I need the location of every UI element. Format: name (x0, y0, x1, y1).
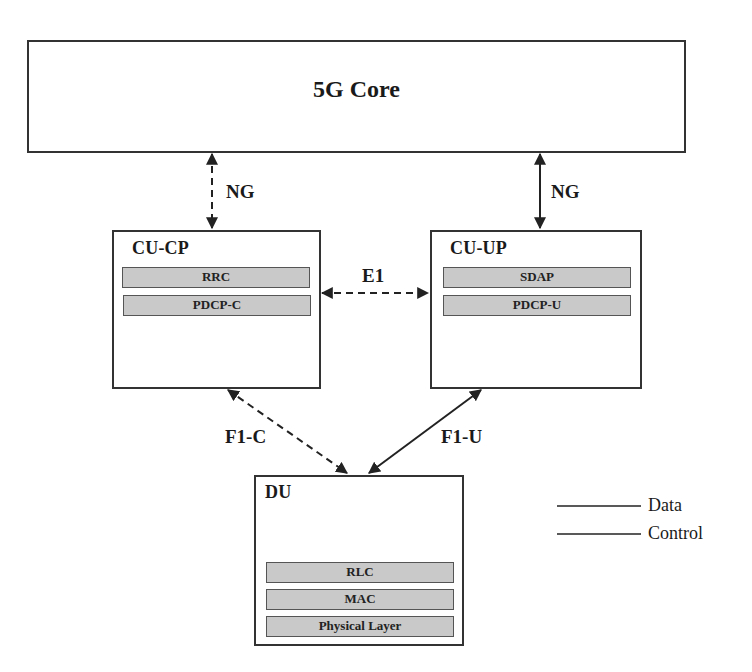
du-box: DU RLC MAC Physical Layer (254, 475, 464, 646)
cu-cp-title: CU-CP (132, 238, 189, 259)
cu-up-box: CU-UP SDAP PDCP-U (430, 230, 642, 389)
core-network-box: 5G Core (27, 40, 686, 153)
legend-data-label: Data (648, 495, 682, 516)
ng-control-label: NG (226, 181, 255, 203)
layer-sdap: SDAP (443, 267, 631, 288)
f1-u-label: F1-U (441, 426, 482, 448)
e1-label: E1 (362, 265, 384, 287)
layer-pdcp-c: PDCP-C (123, 295, 311, 316)
ng-data-label: NG (551, 181, 580, 203)
legend-control-label: Control (648, 523, 703, 544)
layer-pdcp-u: PDCP-U (443, 295, 631, 316)
core-title: 5G Core (29, 76, 684, 103)
layer-rlc: RLC (266, 562, 454, 583)
f1-c-label: F1-C (225, 426, 266, 448)
cu-cp-box: CU-CP RRC PDCP-C (112, 230, 321, 389)
layer-mac: MAC (266, 589, 454, 610)
layer-rrc: RRC (122, 267, 310, 288)
cu-up-title: CU-UP (450, 238, 507, 259)
layer-physical: Physical Layer (266, 616, 454, 637)
du-title: DU (265, 482, 291, 503)
